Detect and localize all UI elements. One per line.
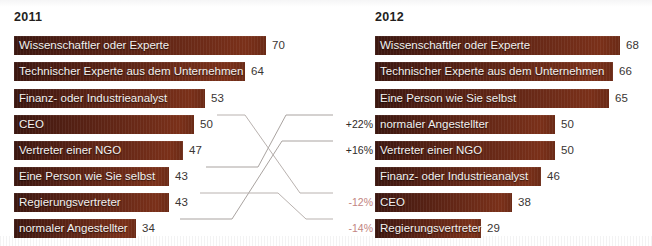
year-heading-2011: 2011	[14, 10, 42, 24]
bar-label: normaler Angestellter	[380, 115, 489, 134]
bar-value: 68	[626, 36, 639, 55]
bar-label: Vertreter einer NGO	[19, 141, 121, 160]
bar-value: 66	[619, 62, 632, 81]
table-row[interactable]: Vertreter einer NGO 47	[14, 141, 324, 160]
bar-label: normaler Angestellter	[19, 219, 128, 238]
table-row[interactable]: Wissenschaftler oder Experte 68	[375, 36, 652, 55]
bar-label: Regierungsvertreter	[19, 193, 121, 212]
bar-value: 50	[561, 115, 574, 134]
bar-value: 43	[175, 167, 188, 186]
bar-label: CEO	[380, 193, 405, 212]
bar-label: Wissenschaftler oder Experte	[380, 36, 530, 55]
table-row[interactable]: Regierungsvertreter 29	[375, 219, 652, 238]
bar-label: Vertreter einer NGO	[380, 141, 482, 160]
table-row[interactable]: Finanz- oder Industrieanalyst 53	[14, 89, 324, 108]
bar-value: 38	[518, 193, 531, 212]
change-label-normaler-angestellter: +16%	[333, 141, 373, 160]
bar-label: Eine Person wie Sie selbst	[380, 89, 516, 108]
bar-value: 53	[211, 89, 224, 108]
table-row[interactable]: normaler Angestellter 50	[375, 115, 652, 134]
bar-label: Finanz- oder Industrieanalyst	[380, 167, 528, 186]
year-heading-2012: 2012	[375, 10, 404, 24]
slope-chart: 2011 2012 Wissenschaftler oder Experte 7…	[0, 0, 652, 246]
table-row[interactable]: Eine Person wie Sie selbst 65	[375, 89, 652, 108]
change-label-ceo: -12%	[333, 193, 373, 212]
change-label-eine-person: +22%	[333, 115, 373, 134]
table-row[interactable]: Regierungsvertreter 43	[14, 193, 324, 212]
bar-value: 50	[561, 141, 574, 160]
bar-value: 43	[175, 193, 188, 212]
bar-value: 50	[200, 115, 213, 134]
bar-value: 70	[272, 36, 285, 55]
bar-value: 46	[547, 167, 560, 186]
scan-artifact-top	[0, 0, 652, 7]
bar-label: Technischer Experte aus dem Unternehmen	[19, 62, 243, 81]
table-row[interactable]: Vertreter einer NGO 50	[375, 141, 652, 160]
bar-label: CEO	[19, 115, 44, 134]
bar-label: Technischer Experte aus dem Unternehmen	[380, 62, 604, 81]
table-row[interactable]: CEO 38	[375, 193, 652, 212]
change-label-regierungsvertreter: -14%	[333, 219, 373, 238]
bar-value: 47	[189, 141, 202, 160]
table-row[interactable]: Technischer Experte aus dem Unternehmen …	[375, 62, 652, 81]
table-row[interactable]: Eine Person wie Sie selbst 43	[14, 167, 324, 186]
bar-value: 64	[251, 62, 264, 81]
bar-value: 65	[615, 89, 628, 108]
bar-label: Wissenschaftler oder Experte	[19, 36, 169, 55]
table-row[interactable]: Technischer Experte aus dem Unternehmen …	[14, 62, 324, 81]
table-row[interactable]: normaler Angestellter 34	[14, 219, 324, 238]
table-row[interactable]: Wissenschaftler oder Experte 70	[14, 36, 324, 55]
bar-label: Regierungsvertreter	[380, 219, 482, 238]
bar-value: 34	[142, 219, 155, 238]
table-row[interactable]: CEO 50	[14, 115, 324, 134]
bar-value: 29	[487, 219, 500, 238]
table-row[interactable]: Finanz- oder Industrieanalyst 46	[375, 167, 652, 186]
bar-label: Finanz- oder Industrieanalyst	[19, 89, 167, 108]
bar-label: Eine Person wie Sie selbst	[19, 167, 155, 186]
